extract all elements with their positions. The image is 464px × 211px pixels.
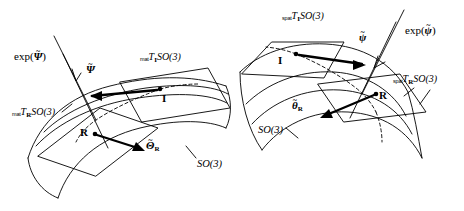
- right-crossing-line: [350, 22, 396, 118]
- right-manifold-left-rim: [240, 72, 262, 150]
- left-manifold-top-edge: [28, 78, 226, 158]
- right-leader-TR2: [420, 90, 430, 104]
- left-vector-psi-head: [90, 91, 102, 101]
- right-point-R-label: R: [379, 90, 387, 101]
- left-vector-psi-label: ~Ψ: [86, 64, 95, 75]
- left-vector-theta-label: ~ΘR: [146, 140, 159, 153]
- left-manifold-left-rim: [28, 158, 58, 198]
- left-geodesic-dashed-ext: [160, 84, 198, 89]
- right-geodesic-dashed-tail: [376, 112, 382, 142]
- right-exp-label: exp(~ψ): [405, 25, 436, 36]
- left-exp-label: exp(~Ψ): [14, 51, 46, 62]
- right-point-I-label: I: [278, 55, 282, 66]
- right-vector-theta-label: ~θR: [292, 100, 303, 113]
- left-manifold-label: SO(3): [197, 159, 222, 170]
- right-manifold-label: SO(3): [258, 125, 283, 136]
- diagram-vector-graphics: [0, 0, 464, 211]
- left-tangent-plane-I-label: matTISO(3): [140, 52, 181, 64]
- right-vector-psi-label: ~ψ: [359, 32, 366, 43]
- right-point-I-dot: [294, 52, 299, 57]
- right-tangent-plane-I-label: spatTISO(3): [282, 11, 324, 23]
- right-vector-psi-head: [353, 60, 366, 70]
- left-tangent-plane-R-label: matTRSO(3): [12, 107, 55, 119]
- left-point-I-label: I: [162, 93, 166, 104]
- right-leader-SO3: [286, 128, 298, 138]
- right-geodesic-dashed: [296, 54, 376, 112]
- left-point-I-dot: [158, 87, 163, 92]
- right-manifold-top-edge: [240, 44, 408, 92]
- left-point-R-label: R: [80, 127, 88, 138]
- figure-canvas: exp(~Ψ) matTISO(3) matTRSO(3) I R ~Ψ ~ΘR…: [0, 0, 464, 211]
- right-vector-theta: [324, 95, 374, 116]
- left-panel-geometry: [28, 36, 231, 198]
- left-leader-SO3: [186, 146, 196, 158]
- right-manifold-right-rim: [408, 92, 422, 158]
- right-tangent-plane-R-label: spatTRSO(3): [393, 74, 437, 86]
